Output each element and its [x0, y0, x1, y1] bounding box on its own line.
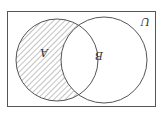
- universe-label: U: [140, 15, 150, 28]
- set-b-label: B: [95, 49, 104, 62]
- venn-diagram: A B U: [0, 0, 165, 113]
- set-a-label: A: [40, 46, 49, 59]
